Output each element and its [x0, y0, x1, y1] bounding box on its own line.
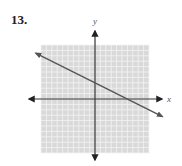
- y-axis-label: y: [92, 16, 97, 26]
- x-axis-label: x: [166, 94, 171, 104]
- coordinate-plane: x y: [0, 0, 182, 166]
